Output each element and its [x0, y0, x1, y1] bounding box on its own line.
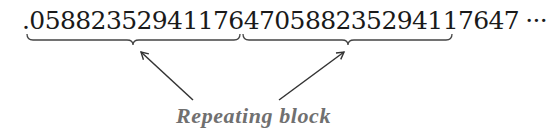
repeating-block-caption: Repeating block — [176, 103, 331, 129]
arrow-right-icon — [279, 52, 344, 100]
underbrace-icon — [243, 34, 452, 45]
ellipsis: ··· — [525, 6, 547, 35]
arrow-left-icon — [141, 52, 193, 100]
underbrace-icon — [27, 34, 240, 45]
